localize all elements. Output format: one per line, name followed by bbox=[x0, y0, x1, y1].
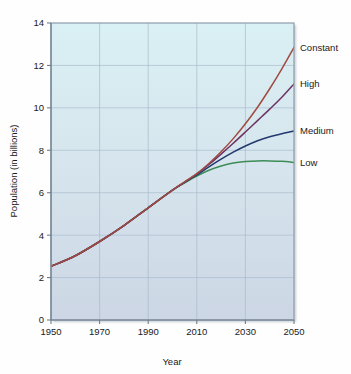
series-label-high: High bbox=[300, 78, 320, 89]
x-tick-label: 1990 bbox=[138, 326, 159, 337]
plot-background bbox=[51, 23, 294, 320]
y-tick-label: 10 bbox=[33, 102, 44, 113]
x-tick-label: 2030 bbox=[235, 326, 256, 337]
x-tick-label: 2050 bbox=[283, 326, 304, 337]
series-label-low: Low bbox=[300, 157, 318, 168]
series-label-medium: Medium bbox=[300, 125, 334, 136]
y-axis-title: Population (in billions) bbox=[8, 125, 19, 218]
population-projection-chart: 02468101214195019701990201020302050 Cons… bbox=[0, 0, 351, 374]
y-tick-label: 4 bbox=[39, 230, 44, 241]
y-tick-label: 14 bbox=[33, 17, 44, 28]
series-label-constant: Constant bbox=[300, 42, 338, 53]
x-tick-label: 1950 bbox=[40, 326, 61, 337]
x-axis-title: Year bbox=[162, 356, 181, 367]
chart-canvas: 02468101214195019701990201020302050 Cons… bbox=[0, 0, 351, 374]
y-tick-label: 0 bbox=[39, 314, 44, 325]
x-tick-label: 2010 bbox=[186, 326, 207, 337]
y-tick-label: 8 bbox=[39, 145, 44, 156]
x-tick-label: 1970 bbox=[89, 326, 110, 337]
y-tick-label: 12 bbox=[33, 60, 44, 71]
plot-area bbox=[51, 23, 294, 320]
y-tick-label: 6 bbox=[39, 187, 44, 198]
y-tick-label: 2 bbox=[39, 272, 44, 283]
